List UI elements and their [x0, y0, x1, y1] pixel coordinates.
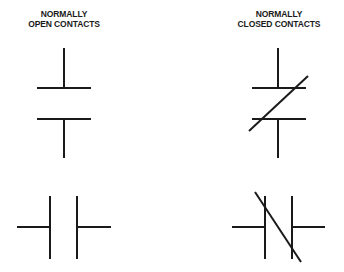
- normally-closed-contact-vertical-icon: [249, 48, 308, 158]
- normally-closed-contact-horizontal-icon: [232, 192, 325, 262]
- contact-symbols-diagram: [0, 0, 344, 272]
- normally-open-contact-horizontal-icon: [17, 196, 111, 259]
- normally-open-contact-vertical-icon: [37, 48, 91, 158]
